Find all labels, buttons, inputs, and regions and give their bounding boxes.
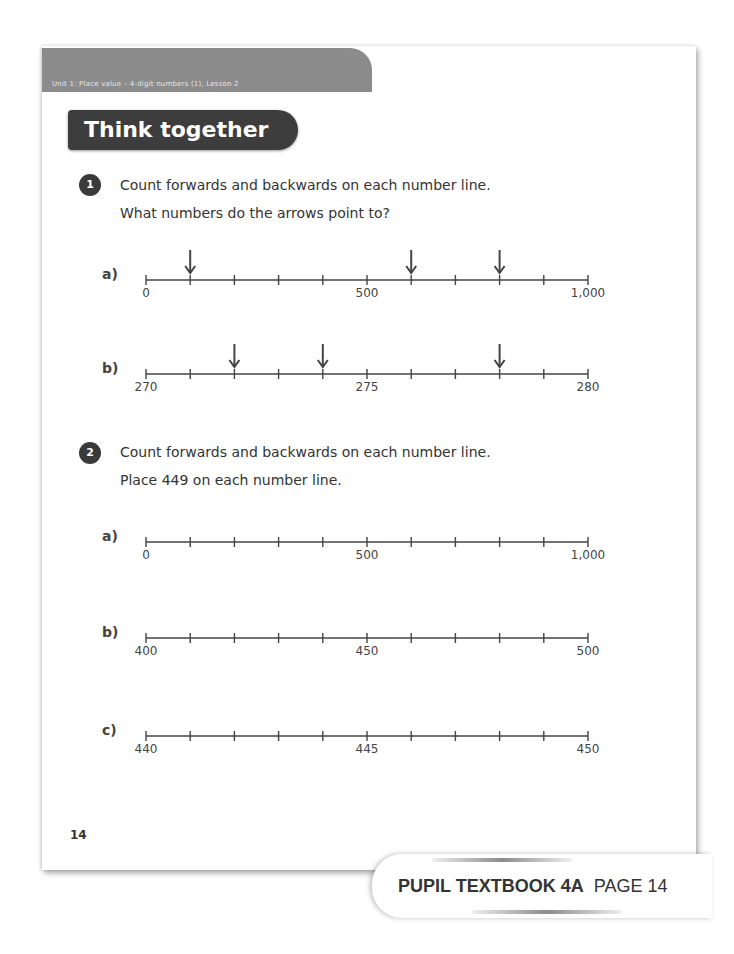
page-number: 14 (70, 828, 87, 842)
down-arrow-icon (495, 344, 505, 367)
question-1-line2: What numbers do the arrows point to? (120, 205, 390, 221)
down-arrow-icon (318, 344, 328, 367)
q1-part-a-label: a) (102, 266, 118, 282)
tick-label: 275 (356, 380, 379, 394)
q1a-number-line: 05001,000 (146, 274, 588, 314)
question-1-badge: 1 (79, 174, 101, 196)
footer-label: PUPIL TEXTBOOK 4A PAGE 14 (398, 876, 667, 897)
q2b-number-line[interactable]: 400450500 (146, 632, 588, 672)
tick-label: 450 (356, 644, 379, 658)
footer-shade-bottom (472, 910, 622, 914)
question-2-line1: Count forwards and backwards on each num… (120, 444, 491, 460)
tick-label: 500 (356, 548, 379, 562)
number-line-axis (146, 632, 588, 644)
number-line-axis (146, 274, 588, 286)
q2c-number-line[interactable]: 440445450 (146, 730, 588, 770)
footer-tab: PUPIL TEXTBOOK 4A PAGE 14 (372, 854, 712, 918)
q1-part-b-label: b) (102, 360, 118, 376)
question-2-badge: 2 (79, 442, 101, 464)
question-2-line2: Place 449 on each number line. (120, 472, 342, 488)
q2-part-b-label: b) (102, 624, 118, 640)
tick-label: 400 (135, 644, 158, 658)
down-arrow-icon (229, 344, 239, 367)
unit-banner-text: Unit 1: Place value – 4-digit numbers (1… (52, 80, 239, 88)
down-arrow-icon (406, 250, 416, 273)
question-1-line1: Count forwards and backwards on each num… (120, 177, 491, 193)
tick-label: 500 (356, 286, 379, 300)
tick-label: 1,000 (571, 548, 605, 562)
tick-label: 1,000 (571, 286, 605, 300)
tick-label: 0 (142, 548, 150, 562)
q2a-number-line[interactable]: 05001,000 (146, 536, 588, 576)
tick-label: 450 (577, 742, 600, 756)
tick-label: 440 (135, 742, 158, 756)
textbook-page: Unit 1: Place value – 4-digit numbers (1… (42, 46, 696, 870)
down-arrow-icon (495, 250, 505, 273)
tick-label: 500 (577, 644, 600, 658)
footer-shade-top (432, 858, 572, 862)
tick-label: 445 (356, 742, 379, 756)
q2-part-c-label: c) (102, 722, 117, 738)
q2-part-a-label: a) (102, 528, 118, 544)
number-line-axis (146, 368, 588, 380)
unit-banner: Unit 1: Place value – 4-digit numbers (1… (42, 48, 372, 92)
number-line-axis (146, 730, 588, 742)
tick-label: 0 (142, 286, 150, 300)
tick-label: 270 (135, 380, 158, 394)
q1b-number-line: 270275280 (146, 368, 588, 408)
tick-label: 280 (577, 380, 600, 394)
number-line-axis (146, 536, 588, 548)
footer-book: PUPIL TEXTBOOK 4A (398, 876, 584, 896)
down-arrow-icon (185, 250, 195, 273)
footer-page: PAGE 14 (594, 876, 668, 896)
section-title: Think together (68, 110, 298, 150)
